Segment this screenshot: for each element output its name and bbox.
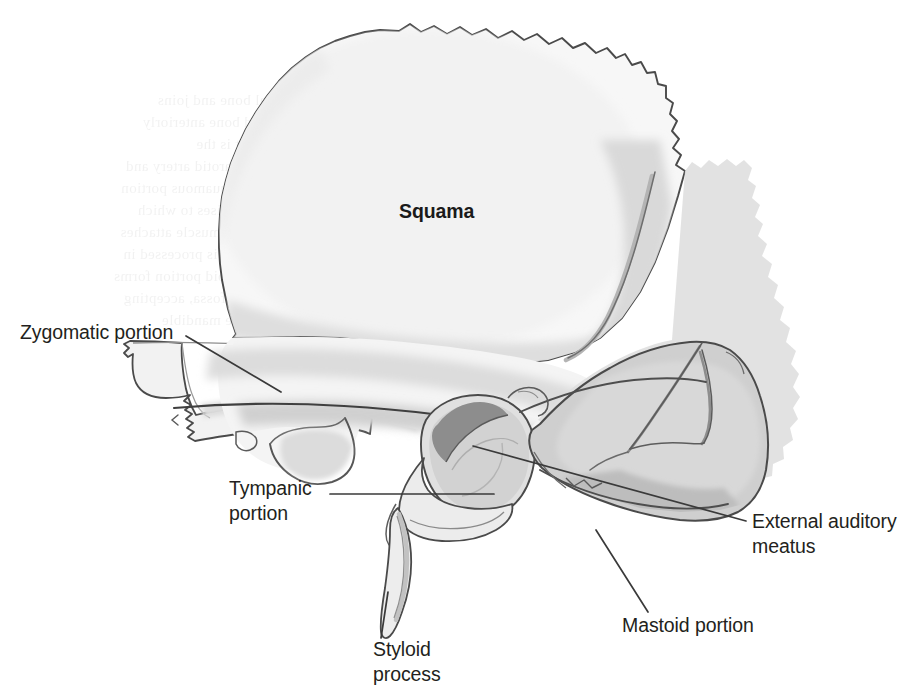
label-styloid-process: process — [373, 663, 441, 685]
label-styloid-process: Styloid — [373, 638, 431, 660]
label-tympanic-portion: portion — [229, 502, 288, 524]
label-squama: Squama — [399, 200, 475, 222]
anatomical-figure: the temporal bone and joinsthe sphenoid … — [0, 0, 916, 700]
label-mastoid-portion: Mastoid portion — [622, 614, 754, 636]
squama-region — [215, 24, 685, 368]
label-zygomatic-portion: Zygomatic portion — [20, 321, 173, 343]
label-external-auditory-meatus: meatus — [752, 535, 816, 557]
label-external-auditory-meatus: External auditory — [752, 510, 897, 532]
label-tympanic-portion: Tympanic — [229, 477, 312, 499]
temporal-bone-illustration: the temporal bone and joinsthe sphenoid … — [0, 0, 916, 700]
